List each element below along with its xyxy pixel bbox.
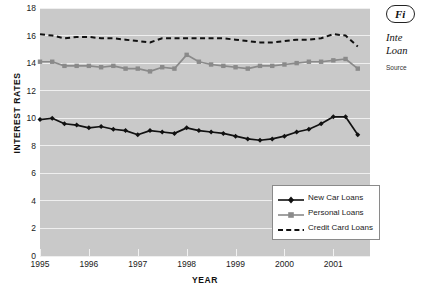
figure-source-note: Source bbox=[386, 64, 426, 71]
data-point-marker bbox=[294, 61, 298, 65]
x-tick-label: 2001 bbox=[313, 259, 353, 269]
data-point-marker bbox=[245, 136, 250, 141]
x-tick-label: 1996 bbox=[69, 259, 109, 269]
series-line bbox=[40, 34, 358, 46]
x-tick-label: 2000 bbox=[264, 259, 304, 269]
data-point-marker bbox=[356, 66, 360, 70]
data-point-marker bbox=[111, 64, 115, 68]
data-point-marker bbox=[160, 130, 165, 135]
data-point-marker bbox=[135, 132, 140, 137]
line-dashed-icon bbox=[277, 222, 305, 234]
y-tick-label: 10 bbox=[12, 113, 36, 123]
legend-label-personal-loans: Personal Loans bbox=[305, 208, 364, 217]
data-point-marker bbox=[62, 64, 66, 68]
data-point-marker bbox=[294, 130, 299, 135]
y-tick-label: 4 bbox=[12, 196, 36, 206]
data-point-marker bbox=[62, 121, 67, 126]
y-tick-label: 14 bbox=[12, 58, 36, 68]
data-point-marker bbox=[233, 134, 238, 139]
line-marker-square-icon bbox=[277, 207, 305, 219]
y-tick-label: 12 bbox=[12, 86, 36, 96]
data-point-marker bbox=[343, 57, 347, 61]
data-point-marker bbox=[38, 60, 42, 64]
figure-number-badge: Fi bbox=[386, 5, 415, 23]
data-point-marker bbox=[233, 65, 237, 69]
figure-caption-panel: Fi Inte Loan Source bbox=[386, 4, 426, 114]
x-tick-label: 1999 bbox=[216, 259, 256, 269]
data-point-marker bbox=[331, 58, 335, 62]
data-point-marker bbox=[172, 131, 177, 136]
legend-item-new-car-loans[interactable]: New Car Loans bbox=[277, 190, 374, 205]
data-point-marker bbox=[270, 64, 274, 68]
data-point-marker bbox=[87, 64, 91, 68]
data-point-marker bbox=[74, 123, 79, 128]
data-point-marker bbox=[221, 64, 225, 68]
data-point-marker bbox=[270, 136, 275, 141]
legend-item-credit-card-loans[interactable]: Credit Card Loans bbox=[277, 220, 374, 235]
data-point-marker bbox=[258, 138, 263, 143]
data-point-marker bbox=[99, 65, 103, 69]
data-point-marker bbox=[123, 66, 127, 70]
data-point-marker bbox=[50, 116, 55, 121]
data-point-marker bbox=[172, 66, 176, 70]
data-point-marker bbox=[306, 127, 311, 132]
data-point-marker bbox=[246, 66, 250, 70]
x-tick-label: 1995 bbox=[20, 259, 60, 269]
y-tick-label: 18 bbox=[12, 3, 36, 13]
figure-caption-title: Inte Loan bbox=[386, 31, 426, 57]
data-point-marker bbox=[197, 60, 201, 64]
data-point-marker bbox=[38, 117, 43, 122]
line-marker-diamond-icon bbox=[277, 192, 305, 204]
chart-legend: New Car Loans Personal Loans Credit Card… bbox=[272, 185, 380, 240]
data-point-marker bbox=[319, 60, 323, 64]
data-point-marker bbox=[123, 128, 128, 133]
data-point-marker bbox=[160, 65, 164, 69]
series-credit-card-loans bbox=[40, 34, 358, 46]
y-tick-label: 6 bbox=[12, 168, 36, 178]
figure-caption-line-1: Inte bbox=[386, 31, 426, 44]
y-tick-label: 2 bbox=[12, 223, 36, 233]
data-point-marker bbox=[86, 125, 91, 130]
data-point-marker bbox=[184, 125, 189, 130]
data-point-marker bbox=[184, 53, 188, 57]
data-point-marker bbox=[74, 64, 78, 68]
data-point-marker bbox=[148, 128, 153, 133]
x-tick-label: 1998 bbox=[167, 259, 207, 269]
data-point-marker bbox=[307, 60, 311, 64]
y-tick-label: 16 bbox=[12, 31, 36, 41]
legend-label-credit-card-loans: Credit Card Loans bbox=[305, 223, 373, 232]
data-point-marker bbox=[209, 130, 214, 135]
data-point-marker bbox=[136, 66, 140, 70]
series-new-car-loans bbox=[38, 114, 361, 142]
data-point-marker bbox=[50, 60, 54, 64]
data-point-marker bbox=[221, 131, 226, 136]
data-point-marker bbox=[258, 64, 262, 68]
series-personal-loans bbox=[38, 53, 360, 74]
figure-caption-line-2: Loan bbox=[386, 44, 426, 57]
x-tick-label: 1997 bbox=[118, 259, 158, 269]
y-tick-label: 8 bbox=[12, 141, 36, 151]
data-point-marker bbox=[209, 62, 213, 66]
x-axis-title: YEAR bbox=[40, 275, 370, 285]
legend-label-new-car-loans: New Car Loans bbox=[305, 193, 363, 202]
interest-rates-figure: INTEREST RATES 024681012141618 199519961… bbox=[0, 0, 426, 293]
data-point-marker bbox=[196, 128, 201, 133]
legend-item-personal-loans[interactable]: Personal Loans bbox=[277, 205, 374, 220]
data-point-marker bbox=[282, 134, 287, 139]
data-point-marker bbox=[111, 127, 116, 132]
data-point-marker bbox=[148, 69, 152, 73]
data-point-marker bbox=[282, 62, 286, 66]
data-point-marker bbox=[99, 124, 104, 129]
